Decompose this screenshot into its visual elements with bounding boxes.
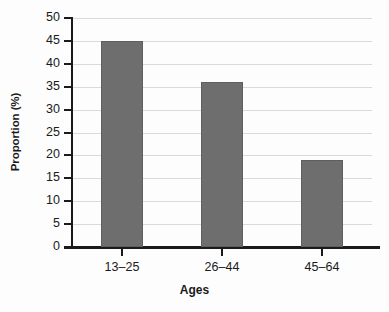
y-axis-tick-label: 15 [34,171,60,184]
y-axis-tick-label: 10 [34,194,60,207]
y-axis-tick-label: 5 [34,217,60,230]
y-axis-tick [64,154,72,156]
bar [101,41,143,247]
y-axis-tick [64,40,72,42]
y-axis-tick-label: 20 [34,148,60,161]
x-axis-tick [321,249,323,256]
bar [301,160,343,247]
y-axis-tick [64,132,72,134]
x-axis-tick [121,249,123,256]
y-axis-tick-label: 40 [34,57,60,70]
x-axis-tick [221,249,223,256]
y-axis-tick [64,109,72,111]
y-axis-tick-label: 25 [34,126,60,139]
y-axis-tick-label: 35 [34,80,60,93]
x-axis-tick-label: 13–25 [82,260,162,274]
y-axis-tick [64,200,72,202]
bar-chart: Proportion (%) 50454035302520151050 Ages… [0,0,389,312]
y-axis-tick [64,17,72,19]
y-axis-tick-label: 0 [34,240,60,253]
x-axis-tick-label: 45–64 [282,260,362,274]
x-axis-title: Ages [0,283,389,297]
y-axis-tick-label: 30 [34,103,60,116]
x-axis-tick-label: 26–44 [182,260,262,274]
y-axis-tick [64,177,72,179]
y-axis-tick-labels: 50454035302520151050 [24,0,60,312]
y-axis-tick [64,246,72,248]
y-axis-tick [64,63,72,65]
y-axis-tick-label: 45 [34,34,60,47]
gridline [72,18,372,19]
y-axis-tick [64,223,72,225]
y-axis-tick [64,86,72,88]
y-axis-tick-label: 50 [34,11,60,24]
bar [201,82,243,247]
